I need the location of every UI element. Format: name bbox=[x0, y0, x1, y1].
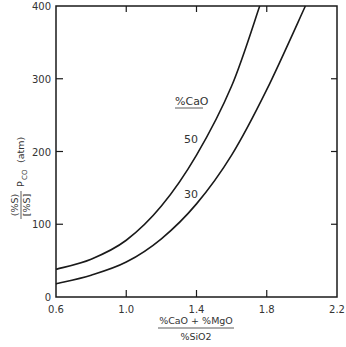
legend-title: %CaO bbox=[175, 95, 209, 108]
y-tick-label: 0 bbox=[45, 292, 51, 303]
y-axis-title: (%S) [%S] P CO (atm) bbox=[9, 137, 32, 219]
y-axis-title-numerator: (%S) bbox=[9, 194, 20, 216]
x-axis-title-numerator: %CaO + %MgO bbox=[159, 315, 233, 326]
x-tick-label: 0.6 bbox=[48, 304, 64, 315]
x-tick-labels: 0.61.01.41.82.2 bbox=[48, 304, 345, 315]
x-tick-label: 2.2 bbox=[329, 304, 345, 315]
y-tick-label: 300 bbox=[32, 74, 51, 85]
x-axis-title-denominator: %SiO2 bbox=[180, 331, 211, 342]
series-label-30: 30 bbox=[184, 188, 198, 201]
y-tick-label: 200 bbox=[32, 147, 51, 158]
y-axis-title-unit: (atm) bbox=[15, 137, 26, 163]
y-axis-title-subscript: CO bbox=[21, 169, 29, 180]
x-tick-label: 1.4 bbox=[189, 304, 205, 315]
axis-ticks bbox=[56, 6, 337, 297]
plot-frame bbox=[56, 6, 337, 297]
y-axis-title-denominator: [%S] bbox=[21, 194, 32, 216]
y-tick-label: 400 bbox=[32, 1, 51, 12]
y-tick-labels: 0100200300400 bbox=[32, 1, 51, 303]
chart: 0.61.01.41.82.2 0100200300400 %CaO 50 30… bbox=[0, 0, 346, 347]
series-label-50: 50 bbox=[184, 133, 198, 146]
series-lines bbox=[56, 6, 305, 284]
x-tick-label: 1.8 bbox=[259, 304, 275, 315]
series-line-30 bbox=[56, 6, 305, 284]
y-tick-label: 100 bbox=[32, 219, 51, 230]
x-tick-label: 1.0 bbox=[118, 304, 134, 315]
series-line-50 bbox=[56, 6, 260, 269]
y-axis-title-pressure: P bbox=[15, 181, 26, 187]
